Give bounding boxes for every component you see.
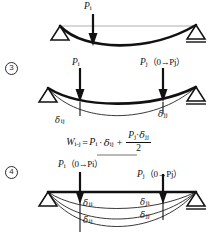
deflection-label-delta-jj: δjj xyxy=(158,110,168,119)
load-range-pi: （0→Pi） xyxy=(66,159,103,169)
panel-beam-case-4: 4 xyxy=(0,158,218,243)
load-range-pj: （0→Pj） xyxy=(145,169,182,179)
panel-4-drawing xyxy=(0,158,218,243)
roller-support-right xyxy=(186,192,206,209)
load-label-pi: Pi xyxy=(84,2,92,12)
separator-hatch xyxy=(97,154,137,156)
deflection-label-delta-ij: δij xyxy=(83,216,93,225)
work-equation: Wi-j = Pi · δij + Pj·δjj 2 xyxy=(0,129,218,155)
equation-lhs: Wi-j xyxy=(66,136,81,148)
fraction-numerator: Pj·δjj xyxy=(126,129,151,142)
deflection-label-delta-jj: δjj xyxy=(140,211,150,220)
deflected-beam-curve-thick xyxy=(48,87,196,104)
deflected-beam-curve xyxy=(60,25,196,45)
load-arrow-pi xyxy=(76,68,85,102)
load-label-pi: Pi xyxy=(72,58,80,68)
load-label-pj: Pj（0→Pj） xyxy=(140,58,185,68)
panel-2-drawing xyxy=(0,0,218,58)
equation-plus: + xyxy=(114,137,126,148)
deflection-label-delta-ij: δij xyxy=(55,116,65,125)
fraction-denominator: 2 xyxy=(136,143,141,154)
deflection-label-delta-ii: δii xyxy=(83,199,93,208)
panel-beam-case-2: Pi xyxy=(0,0,218,58)
deflection-label-delta-ji: δji xyxy=(140,198,150,207)
equation-term-1: Pi xyxy=(89,136,97,148)
beam-deflection-figure: Pi 3 xyxy=(0,0,218,243)
load-range-pj: （0→Pj） xyxy=(148,57,185,67)
deflection-curve-2 xyxy=(48,192,196,219)
deflection-curve-thin xyxy=(48,87,196,116)
load-label-pi: Pi（0→Pi） xyxy=(58,160,103,170)
load-label-pj: Pj（0→Pj） xyxy=(137,170,182,180)
equation-fraction: Pj·δjj 2 xyxy=(126,129,151,153)
